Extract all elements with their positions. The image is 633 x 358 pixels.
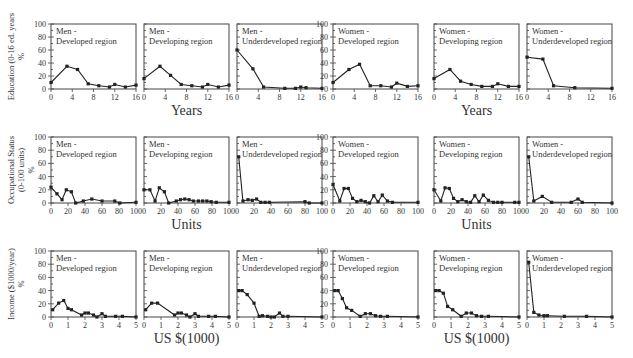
data-point (66, 307, 69, 310)
data-point (144, 308, 147, 311)
y-tick-label: 100 (34, 133, 46, 142)
x-tick-label: 0 (235, 207, 239, 216)
x-axis-title: Units (171, 217, 201, 232)
panel-title-line1: Women - (338, 26, 369, 36)
data-point (207, 315, 210, 318)
data-point (76, 68, 79, 71)
panel-title-line1: Men - (56, 253, 77, 263)
y-tick-label: 20 (320, 72, 328, 81)
data-point (513, 201, 516, 204)
data-point (517, 85, 520, 88)
data-point (610, 315, 613, 318)
x-tick-label: 3 (193, 321, 197, 330)
x-tick-label: 2 (176, 321, 180, 330)
x-tick-label: 0 (49, 207, 53, 216)
data-point (263, 201, 266, 204)
data-point (581, 201, 584, 204)
data-point (124, 85, 127, 88)
x-tick-label: 1 (348, 321, 352, 330)
data-point (294, 87, 297, 90)
x-tick-label: 8 (475, 93, 479, 102)
data-point (227, 315, 230, 318)
x-tick-label: 3 (576, 321, 580, 330)
y-tick-label: 40 (38, 173, 46, 182)
panel-title-line2: Developing region (149, 149, 213, 159)
data-point (65, 188, 68, 191)
data-point (266, 315, 269, 318)
data-point (173, 313, 176, 316)
x-tick-label: 0 (525, 207, 529, 216)
panel-title-line2: Developing region (439, 149, 503, 159)
panel-2-2: 012345Men -Underdeveloped region (235, 251, 324, 330)
x-tick-label: 5 (416, 321, 420, 330)
series-line (51, 66, 136, 87)
x-tick-label: 3 (382, 321, 386, 330)
x-tick-label: 80 (301, 207, 309, 216)
data-point (176, 311, 179, 314)
x-tick-label: 4 (546, 93, 550, 102)
data-point (308, 201, 311, 204)
panel-title-line1: Women - (439, 26, 470, 36)
data-point (496, 82, 499, 85)
data-point (460, 198, 463, 201)
data-point (49, 81, 52, 84)
data-point (55, 192, 58, 195)
data-point (395, 82, 398, 85)
panel-0-2: 0481216Men -Underdeveloped region (235, 24, 326, 102)
x-tick-label: 12 (297, 93, 305, 102)
data-point (114, 315, 117, 318)
data-point (134, 201, 137, 204)
panel-1-3: 020406080100020406080100Women -Developed… (316, 133, 424, 216)
panel-title-line1: Men - (242, 139, 263, 149)
data-point (550, 201, 553, 204)
y-tick-label: 80 (320, 33, 328, 42)
x-tick-label: 2 (365, 321, 369, 330)
series-line (144, 66, 229, 87)
x-tick-label: 60 (574, 207, 582, 216)
x-tick-label: 8 (374, 93, 378, 102)
data-point (281, 315, 284, 318)
data-point (183, 197, 186, 200)
data-point (113, 83, 116, 86)
data-point (210, 200, 213, 203)
panel-title-line1: Women - (532, 139, 563, 149)
x-tick-label: 12 (204, 93, 212, 102)
y-tick-label: 40 (38, 287, 46, 296)
panel-title-line1: Men - (242, 26, 263, 36)
data-point (205, 199, 208, 202)
y-tick-label: 40 (320, 59, 328, 68)
panel-2-5: 012345Women -Underdeveloped region (525, 251, 614, 330)
data-point (87, 82, 90, 85)
series-line (237, 50, 322, 88)
data-point (333, 289, 336, 292)
data-point (180, 83, 183, 86)
x-tick-label: 0 (235, 321, 239, 330)
x-tick-label: 4 (500, 321, 504, 330)
panel-1-4: 020406080100Women -Developing region (432, 137, 525, 216)
data-point (358, 63, 361, 66)
y-tick-label: 0 (42, 313, 46, 322)
x-tick-label: 0 (49, 93, 53, 102)
panel-0-5: 0481216Women -Underdeveloped region (525, 24, 616, 102)
data-point (480, 85, 483, 88)
panel-title-line2: Developing region (439, 36, 503, 46)
data-point (369, 312, 372, 315)
data-point (188, 315, 191, 318)
data-point (482, 193, 485, 196)
figure: 0204060801000481216Men -Developed region… (0, 0, 633, 358)
row-axis-label: % (16, 53, 26, 60)
data-point (97, 84, 100, 87)
x-tick-label: 8 (185, 93, 189, 102)
data-point (443, 186, 446, 189)
data-point (60, 198, 63, 201)
y-tick-label: 40 (320, 173, 328, 182)
row-axis-label: % (16, 280, 26, 287)
data-point (100, 199, 103, 202)
data-point (525, 56, 528, 59)
data-point (406, 85, 409, 88)
y-tick-label: 80 (38, 146, 46, 155)
data-point (273, 315, 276, 318)
data-point (341, 297, 344, 300)
x-tick-label: 4 (303, 321, 307, 330)
data-point (351, 197, 354, 200)
